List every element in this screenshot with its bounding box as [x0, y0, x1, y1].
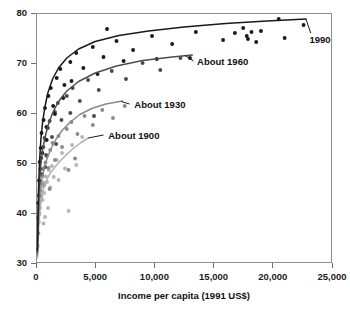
- data-point: [53, 158, 57, 162]
- data-point: [50, 164, 54, 168]
- x-axis-ticks: [36, 263, 332, 268]
- data-point: [194, 30, 198, 34]
- data-point: [158, 68, 162, 72]
- data-point: [70, 143, 74, 147]
- y-tick-label: 30: [16, 257, 27, 268]
- data-point: [63, 167, 67, 171]
- data-point: [75, 132, 79, 136]
- data-point: [150, 34, 154, 38]
- chart-canvas: 304050607080 05,00010,00015,00020,00025,…: [0, 0, 350, 310]
- data-point: [141, 61, 145, 65]
- data-point: [302, 23, 306, 27]
- y-tick-label: 60: [16, 107, 27, 118]
- y-axis-ticks: [31, 13, 36, 263]
- data-point: [60, 145, 64, 149]
- y-tick-label: 40: [16, 207, 27, 218]
- x-tick-label: 0: [33, 271, 38, 282]
- data-point: [80, 135, 84, 139]
- x-tick-label: 15,000: [199, 271, 228, 282]
- data-point: [48, 187, 52, 191]
- data-point: [55, 76, 59, 80]
- data-point: [68, 60, 72, 64]
- data-point: [246, 37, 250, 41]
- data-point: [60, 118, 64, 122]
- x-axis-title: Income per capita (1991 US$): [118, 290, 250, 301]
- data-point: [250, 30, 254, 34]
- curve-label-about-1960: About 1960: [197, 56, 248, 67]
- data-point: [73, 157, 77, 161]
- data-point: [241, 26, 245, 30]
- plot-frame: [36, 13, 332, 263]
- life-expectancy-income-chart: 304050607080 05,00010,00015,00020,00025,…: [0, 0, 350, 310]
- data-point: [92, 114, 96, 118]
- data-point: [67, 209, 71, 213]
- data-point: [51, 104, 55, 108]
- data-point: [46, 206, 50, 210]
- y-tick-label: 50: [16, 157, 27, 168]
- data-point: [60, 151, 64, 155]
- y-tick-label: 70: [16, 57, 27, 68]
- data-point: [78, 99, 82, 103]
- x-tick-label: 10,000: [140, 271, 169, 282]
- data-point: [81, 66, 85, 70]
- data-point: [62, 83, 66, 87]
- data-point: [43, 215, 47, 219]
- data-point: [42, 222, 46, 226]
- data-point: [65, 94, 69, 98]
- x-tick-label: 20,000: [258, 271, 287, 282]
- data-point: [86, 78, 90, 82]
- data-point: [68, 111, 72, 115]
- curve-label-about-1930: About 1930: [134, 99, 185, 110]
- data-point: [122, 59, 126, 63]
- y-tick-label: 80: [16, 7, 27, 18]
- data-point: [91, 123, 95, 127]
- data-point: [52, 175, 56, 179]
- data-point: [221, 38, 225, 42]
- data-point: [131, 48, 135, 52]
- data-point: [70, 79, 74, 83]
- x-tick-label: 25,000: [317, 271, 346, 282]
- data-point: [283, 36, 287, 40]
- curve-label-about-1900: About 1900: [108, 130, 159, 141]
- data-point: [124, 77, 128, 81]
- data-point: [170, 42, 174, 46]
- data-point: [74, 163, 78, 167]
- data-point: [102, 55, 106, 59]
- data-point: [105, 27, 109, 31]
- curve-label-1990: 1990: [310, 34, 331, 45]
- data-point: [123, 104, 127, 108]
- data-point: [259, 29, 263, 33]
- data-point: [233, 31, 237, 35]
- data-point: [254, 40, 258, 44]
- data-point: [50, 135, 54, 139]
- y-axis-tick-labels: 304050607080: [16, 7, 27, 268]
- data-point: [97, 88, 101, 92]
- plot-background: [36, 13, 332, 263]
- data-point: [115, 39, 119, 43]
- data-point: [110, 69, 114, 73]
- data-point: [100, 108, 104, 112]
- x-tick-label: 5,000: [83, 271, 107, 282]
- data-point: [67, 168, 71, 172]
- data-point: [83, 114, 87, 118]
- data-point: [111, 116, 115, 120]
- x-axis-tick-labels: 05,00010,00015,00020,00025,000: [33, 271, 346, 282]
- data-point: [91, 45, 95, 49]
- data-point: [57, 178, 61, 182]
